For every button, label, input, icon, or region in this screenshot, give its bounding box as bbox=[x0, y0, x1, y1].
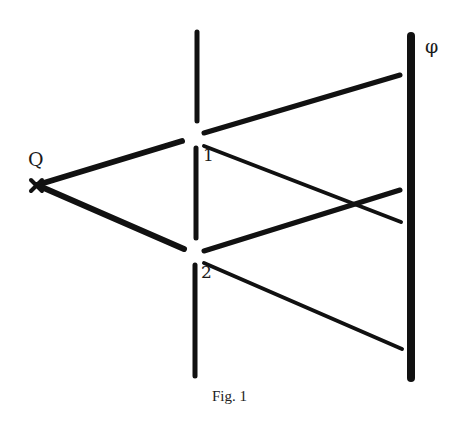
double-slit-diagram bbox=[0, 0, 459, 427]
figure-caption: Fig. 1 bbox=[0, 388, 459, 405]
ray-q-to-slit2 bbox=[37, 185, 184, 249]
screen-label: φ bbox=[425, 35, 438, 57]
slit1-label: 1 bbox=[203, 145, 214, 165]
source-label: Q bbox=[28, 148, 44, 170]
ray-slit2-upper bbox=[204, 190, 400, 251]
ray-slit2-lower bbox=[204, 263, 402, 349]
ray-slit1-upper bbox=[204, 75, 400, 133]
slit2-label: 2 bbox=[201, 262, 212, 282]
ray-q-to-slit1 bbox=[37, 141, 182, 185]
ray-slit1-lower bbox=[204, 146, 401, 222]
